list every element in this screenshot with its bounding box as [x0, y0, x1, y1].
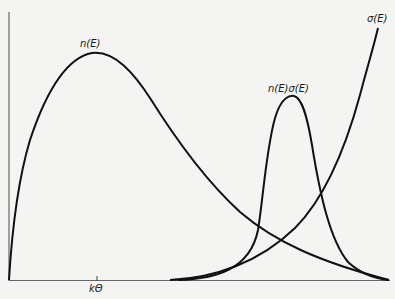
- sigma-label: σ(E): [367, 14, 387, 24]
- product-curve: [178, 96, 389, 280]
- n-label: n(E): [80, 39, 100, 49]
- sigma-curve: [170, 28, 378, 280]
- product-label: n(E)σ(E): [268, 84, 309, 94]
- diagram-canvas: [0, 0, 395, 299]
- gamow-peak-diagram: n(E) n(E)σ(E) σ(E) kΘ: [0, 0, 395, 299]
- ktheta-label: kΘ: [89, 284, 103, 294]
- n-curve: [9, 53, 389, 280]
